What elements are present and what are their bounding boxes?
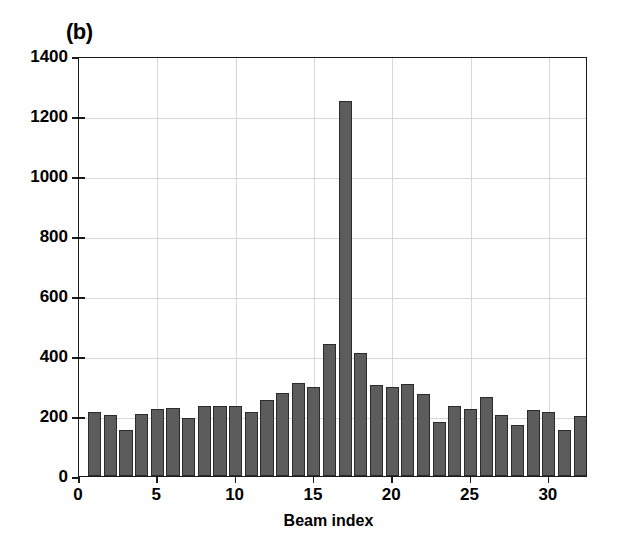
bar [401, 384, 414, 476]
bar [448, 406, 461, 477]
bar [182, 418, 195, 476]
bar [339, 101, 352, 476]
x-axis-tick [235, 477, 237, 483]
bar [323, 344, 336, 476]
x-axis-title: Beam index [0, 513, 617, 529]
y-axis-tick-inner [78, 417, 85, 419]
bar [88, 412, 101, 476]
y-axis-tick-label: 200 [6, 408, 68, 425]
x-axis-tick-label: 0 [58, 486, 98, 503]
gridline-horizontal [79, 118, 586, 119]
y-axis-tick-label: 400 [6, 348, 68, 365]
y-axis-tick [72, 57, 79, 59]
y-axis-tick-label: 800 [6, 228, 68, 245]
x-axis-tick-label: 30 [528, 486, 568, 503]
chart-figure: (b) 0200400600800100012001400 0510152025… [0, 0, 617, 550]
y-axis-tick-label: 0 [6, 468, 68, 485]
bar [213, 406, 226, 477]
bar [574, 416, 587, 476]
x-axis-tick [313, 477, 315, 483]
bar [542, 412, 555, 476]
y-axis-tick-inner [78, 297, 85, 299]
y-axis-tick-inner [78, 357, 85, 359]
y-axis-tick-inner [78, 237, 85, 239]
bar [370, 385, 383, 477]
y-axis-tick-inner [78, 117, 85, 119]
bar [480, 397, 493, 477]
bar [527, 410, 540, 476]
x-axis-tick [391, 477, 393, 483]
x-axis-tick-label: 25 [450, 486, 490, 503]
gridline-horizontal [79, 238, 586, 239]
bar [292, 383, 305, 476]
x-axis-tick-label: 5 [136, 486, 176, 503]
x-axis-tick [470, 477, 472, 483]
y-axis-tick-label: 1000 [6, 168, 68, 185]
bar [511, 425, 524, 476]
bar [433, 422, 446, 476]
bar [495, 415, 508, 477]
x-axis-tick-label: 10 [215, 486, 255, 503]
bar [104, 415, 117, 477]
gridline-horizontal [79, 298, 586, 299]
bar [354, 353, 367, 476]
bar [276, 393, 289, 476]
bar [151, 409, 164, 477]
bar [135, 414, 148, 476]
bar [260, 400, 273, 476]
panel-label: (b) [66, 21, 93, 43]
y-axis-tick-label: 1400 [6, 48, 68, 65]
x-axis-tick [78, 477, 80, 483]
bar [245, 412, 258, 477]
bar [558, 430, 571, 476]
bar [307, 387, 320, 476]
bar [386, 387, 399, 476]
plot-area [78, 57, 587, 477]
x-axis-tick-label: 15 [293, 486, 333, 503]
y-axis-tick-inner [78, 177, 85, 179]
y-axis-tick-label: 600 [6, 288, 68, 305]
x-axis-tick [156, 477, 158, 483]
bar [464, 409, 477, 476]
x-axis-tick [548, 477, 550, 483]
y-axis-tick-label: 1200 [6, 108, 68, 125]
bar [229, 406, 242, 476]
bar [417, 394, 430, 476]
bar [166, 408, 179, 476]
gridline-horizontal [79, 178, 586, 179]
bar [119, 430, 132, 477]
x-axis-tick-label: 20 [371, 486, 411, 503]
bar [198, 406, 211, 476]
